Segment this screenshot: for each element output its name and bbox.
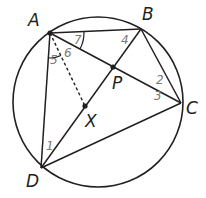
point-A-dot bbox=[47, 30, 52, 35]
segment-CD bbox=[41, 103, 181, 168]
geometry-diagram: ABCDPX1234567 bbox=[0, 0, 206, 198]
segment-BD bbox=[41, 29, 141, 168]
point-label-D: D bbox=[26, 171, 39, 191]
point-label-B: B bbox=[142, 4, 154, 24]
point-label-P: P bbox=[112, 73, 123, 93]
angle-label-6: 6 bbox=[64, 46, 72, 60]
angle-label-7: 7 bbox=[74, 33, 82, 47]
point-X-dot bbox=[82, 103, 87, 108]
angle-label-2: 2 bbox=[156, 73, 164, 87]
angle-label-3: 3 bbox=[154, 89, 162, 103]
point-label-A: A bbox=[27, 10, 40, 30]
angle-label-1: 1 bbox=[46, 139, 54, 153]
circle-quadrilateral-figure: ABCDPX1234567 bbox=[0, 0, 206, 198]
point-label-X: X bbox=[84, 111, 97, 131]
point-P-dot bbox=[110, 64, 115, 69]
point-label-C: C bbox=[186, 98, 198, 118]
angle-label-4: 4 bbox=[121, 33, 129, 47]
angle-label-5: 5 bbox=[50, 53, 58, 67]
